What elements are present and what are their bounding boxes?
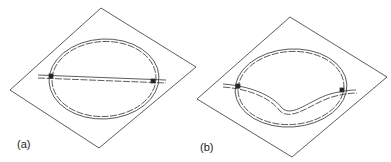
figure-canvas	[0, 0, 391, 162]
panel-b	[197, 17, 387, 157]
junction-b-right	[340, 88, 344, 92]
panel-a-label: (a)	[17, 138, 30, 150]
straight-track-a-bottom	[38, 78, 166, 83]
straight-track-a-top	[38, 75, 166, 80]
panel-a	[10, 8, 196, 148]
plane-a	[10, 8, 196, 148]
curved-track-b-top	[223, 84, 356, 111]
ring-b-outer	[232, 45, 349, 131]
junction-b-left	[236, 84, 240, 88]
panel-b-label: (b)	[200, 141, 213, 153]
ring-b-inner	[236, 48, 347, 128]
junction-a-left	[49, 74, 53, 78]
junction-a-right	[151, 79, 155, 83]
